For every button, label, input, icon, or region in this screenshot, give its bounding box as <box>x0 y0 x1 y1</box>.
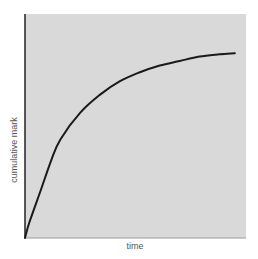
y-axis-label: cumulative mark <box>9 117 19 183</box>
x-axis-label: time <box>126 241 143 251</box>
chart <box>0 0 258 259</box>
plot-background <box>25 14 246 238</box>
